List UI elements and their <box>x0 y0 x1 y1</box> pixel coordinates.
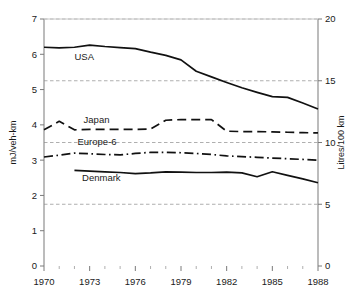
ytick-label-left-3: 3 <box>32 155 37 166</box>
right-axis-title: Litres/100 km <box>336 115 346 169</box>
ytick-label-right-15: 15 <box>325 75 336 86</box>
ytick-label-left-7: 7 <box>32 13 37 24</box>
series-label-usa: USA <box>74 51 94 62</box>
ytick-label-left-6: 6 <box>32 49 37 60</box>
left-axis-title: mJ/veh-km <box>8 120 18 164</box>
line-chart: 0123456705101520197019731976197919821985… <box>0 0 358 300</box>
ytick-label-left-4: 4 <box>32 119 37 130</box>
series-label-japan: Japan <box>84 114 110 125</box>
xtick-label-1976: 1976 <box>125 276 146 287</box>
series-label-denmark: Denmark <box>82 172 121 183</box>
xtick-label-1982: 1982 <box>216 276 237 287</box>
xtick-label-1985: 1985 <box>262 276 283 287</box>
ytick-label-left-5: 5 <box>32 84 37 95</box>
series-label-europe-6: Europe-6 <box>77 136 116 147</box>
ytick-label-right-5: 5 <box>325 199 330 210</box>
xtick-label-1979: 1979 <box>170 276 191 287</box>
ytick-label-left-1: 1 <box>32 225 37 236</box>
ytick-label-right-0: 0 <box>325 260 330 271</box>
xtick-label-1973: 1973 <box>79 276 100 287</box>
xtick-label-1970: 1970 <box>33 276 54 287</box>
ytick-label-left-2: 2 <box>32 190 37 201</box>
series-line-europe-6 <box>44 152 318 160</box>
ytick-label-right-20: 20 <box>325 13 336 24</box>
ytick-label-left-0: 0 <box>32 260 37 271</box>
ytick-label-right-10: 10 <box>325 137 336 148</box>
chart-container: 0123456705101520197019731976197919821985… <box>0 0 358 300</box>
xtick-label-1988: 1988 <box>307 276 328 287</box>
